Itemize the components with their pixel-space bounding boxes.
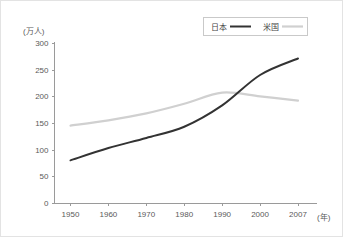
line-chart: (万人) 050100150200250300 1950196019701980…	[1, 1, 343, 237]
series-line-usa	[71, 92, 299, 125]
y-tick-label: 300	[35, 39, 49, 48]
x-tick-label: 1980	[175, 210, 193, 219]
y-tick-label: 50	[40, 172, 49, 181]
legend-label-usa: 米国	[263, 22, 279, 32]
y-tick-label: 0	[44, 199, 49, 208]
x-tick-label: 2000	[251, 210, 269, 219]
legend-label-japan: 日本	[211, 22, 227, 32]
chart-legend: 日本米国	[204, 18, 308, 36]
x-axis-unit-label: (年)	[317, 212, 331, 222]
x-tick-label: 1950	[62, 210, 80, 219]
series-group	[71, 58, 299, 160]
x-axis-ticks: 1950196019701980199020002007	[62, 203, 308, 219]
series-line-japan	[71, 58, 299, 160]
y-axis-ticks: 050100150200250300	[35, 39, 54, 208]
y-tick-label: 200	[35, 92, 49, 101]
x-tick-label: 1990	[213, 210, 231, 219]
y-tick-label: 100	[35, 146, 49, 155]
y-axis-unit-label: (万人)	[23, 27, 45, 36]
x-tick-label: 1960	[100, 210, 118, 219]
y-tick-label: 150	[35, 119, 49, 128]
x-tick-label: 2007	[289, 210, 307, 219]
x-tick-label: 1970	[137, 210, 155, 219]
y-tick-label: 250	[35, 66, 49, 75]
chart-figure: (万人) 050100150200250300 1950196019701980…	[0, 0, 343, 237]
